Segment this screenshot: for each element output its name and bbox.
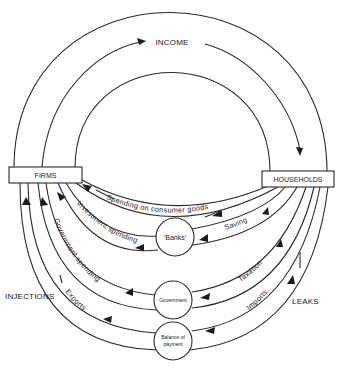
gov-arrow-head — [40, 197, 48, 206]
banks-label: 'Banks' — [164, 234, 186, 241]
balance-of-payment-node: Balance of payment — [154, 322, 192, 360]
households-node: HOUSEHOLDS — [262, 171, 334, 187]
investment-arrow-head — [57, 192, 66, 201]
leaks-label: LEAKS — [292, 297, 319, 306]
exports-short-line — [60, 275, 62, 283]
firms-label: FIRMS — [35, 172, 57, 179]
label-consumer-spending: Spending on consumer goods — [105, 192, 209, 214]
income-label: INCOME — [155, 38, 188, 47]
income-arrow-head — [137, 38, 146, 45]
saving-arrow-head-top — [262, 207, 269, 215]
firms-node: FIRMS — [9, 167, 82, 183]
income-flow-left — [42, 42, 140, 167]
tax-arrow-head — [200, 293, 210, 300]
label-taxation: Taxation — [236, 258, 264, 284]
label-imports: Imports — [244, 287, 269, 312]
exports-arrow-head — [22, 197, 31, 205]
circular-flow-diagram: Spending on consumer goods Investment sp… — [0, 0, 341, 370]
banks-node: 'Banks' — [156, 218, 194, 256]
income-arch-outer — [14, 12, 327, 172]
saving-arrow-head — [199, 234, 208, 242]
households-label: HOUSEHOLDS — [273, 176, 322, 183]
balance-label-line1: Balance of — [161, 334, 185, 340]
label-government-spending: Government spending — [52, 217, 102, 284]
government-node: Government — [154, 281, 192, 319]
tax-band-lower — [192, 187, 314, 308]
label-exports: Exports — [63, 287, 88, 312]
imports-arrow-head-top — [287, 275, 295, 284]
income-arrow-head — [296, 147, 303, 156]
government-label: Government — [159, 297, 187, 303]
income-arch-inner — [75, 72, 270, 172]
injections-label: INJECTIONS — [5, 292, 55, 301]
balance-label-line2: payment — [163, 341, 183, 347]
